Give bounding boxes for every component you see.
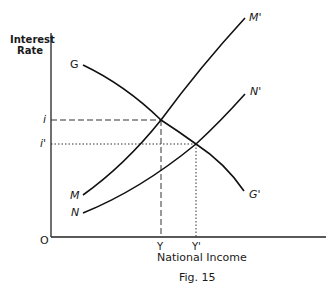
figure-caption: Fig. 15 <box>179 272 216 284</box>
label-G: G <box>70 59 79 71</box>
y-axis-label-line1: Interest <box>10 34 50 45</box>
curve-GG <box>83 65 244 191</box>
tick-label-i: i <box>43 114 46 126</box>
x-axis-label: National Income <box>157 252 247 264</box>
tick-label-i-prime: i' <box>40 138 46 150</box>
curve-NN <box>83 94 245 213</box>
label-M-prime: M' <box>249 12 262 24</box>
label-G-prime: G' <box>249 189 261 201</box>
label-N-prime: N' <box>250 86 261 98</box>
origin-label: O <box>40 235 49 247</box>
y-axis-label-line2: Rate <box>10 45 50 56</box>
label-M: M <box>70 190 80 202</box>
label-N: N <box>71 207 79 219</box>
y-axis-label: Interest Rate <box>10 34 50 56</box>
